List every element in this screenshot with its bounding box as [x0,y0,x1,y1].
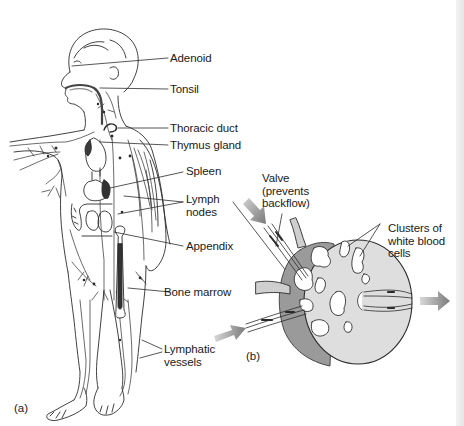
thoracic-duct [104,124,117,132]
bone-marrow-shape [115,226,125,318]
label-spleen: Spleen [186,165,221,178]
panel-b-label: (b) [246,350,260,362]
label-appendix: Appendix [186,240,233,253]
thymus-gland-shape [85,138,106,180]
label-clusters-white-blood-cells: Clusters of white blood cells [388,222,445,260]
label-thymus-gland: Thymus gland [170,139,241,152]
label-tonsil: Tonsil [170,83,199,96]
illustration [0,0,464,426]
label-bone-marrow: Bone marrow [164,286,231,299]
label-lymph-nodes: Lymph nodes [186,193,220,218]
flow-arrow-out [420,291,450,311]
label-valve: Valve (prevents backflow) [262,172,310,210]
label-lymphatic-vessels: Lymphatic vessels [164,343,215,368]
lymphatic-vessel-network [10,92,156,398]
spleen-shape [84,180,110,201]
label-thoracic-duct: Thoracic duct [170,122,238,135]
label-adenoid: Adenoid [170,52,212,65]
flow-arrow-in-bottom [214,325,246,342]
airway [66,85,102,124]
lymphatic-system-figure: Adenoid Tonsil Thoracic duct Thymus glan… [0,0,464,426]
panel-a-label: (a) [14,402,28,414]
intestines-shape [71,204,112,236]
